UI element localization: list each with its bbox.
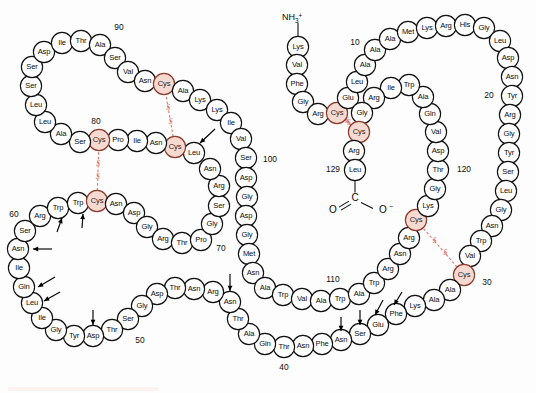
residue-lys-13[interactable]: Lys [416, 17, 437, 38]
residue-label: Gly [298, 97, 309, 106]
arrowhead-icon [33, 247, 38, 252]
residue-thr-120[interactable]: Thr [427, 159, 448, 180]
position-number-label: 110 [326, 274, 340, 284]
residue-label: Ile [133, 136, 141, 145]
residue-ile-78[interactable]: Ile [126, 130, 147, 151]
arrowhead-icon [91, 320, 96, 325]
residue-val-99[interactable]: Val [230, 128, 251, 149]
residue-asn-19[interactable]: Asn [501, 66, 522, 87]
residue-tyr-20[interactable]: Tyr [501, 85, 522, 106]
residue-asn-77[interactable]: Asn [145, 132, 166, 153]
residue-val-2[interactable]: Val [286, 54, 307, 75]
residue-label: Asp [240, 173, 253, 182]
residue-label: Asp [502, 53, 515, 62]
arrow-trp62-marker [57, 218, 63, 232]
residue-met-105[interactable]: Met [238, 243, 259, 264]
residue-label: Lys [409, 301, 420, 310]
residue-cys-80[interactable]: Cys [88, 129, 109, 150]
residue-trp-108[interactable]: Trp [272, 284, 293, 305]
residue-label: Tyr [507, 91, 518, 100]
residue-met-12[interactable]: Met [397, 21, 418, 42]
residue-label: Val [123, 67, 133, 76]
residue-label: Asp [151, 289, 164, 298]
residue-thr-89[interactable]: Thr [70, 30, 91, 51]
residue-ala-32[interactable]: Ala [423, 289, 444, 310]
residue-arg-130[interactable]: Arg [343, 140, 364, 161]
residue-label: Asn [12, 244, 25, 253]
residue-gly-102[interactable]: Gly [236, 186, 257, 207]
residue-pro-79[interactable]: Pro [107, 129, 128, 150]
residue-asp-101[interactable]: Asp [235, 167, 256, 188]
residue-trp-111[interactable]: Trp [329, 288, 350, 309]
position-number-label: 90 [114, 22, 124, 32]
residue-leu-75[interactable]: Leu [183, 142, 204, 163]
residue-arg-68[interactable]: Arg [152, 228, 173, 249]
residue-ser-24[interactable]: Ser [497, 161, 518, 182]
residue-leu-25[interactable]: Leu [495, 180, 516, 201]
residue-asn-37[interactable]: Asn [330, 329, 351, 350]
residue-gly-128[interactable]: Gly [351, 102, 372, 123]
residue-asp-103[interactable]: Asp [235, 205, 256, 226]
residue-asn-93[interactable]: Asn [134, 70, 155, 91]
residue-val-109[interactable]: Val [291, 288, 312, 309]
residue-label: Ala [370, 45, 381, 54]
residue-label: Asp [432, 146, 445, 155]
residue-label: Asn [297, 341, 310, 350]
residue-asp-18[interactable]: Asp [497, 47, 518, 68]
residue-label: Asn [139, 76, 152, 85]
residue-cys-129[interactable]: Cys [348, 121, 369, 142]
disulfide-s-label: S [96, 172, 100, 181]
residue-ser-72[interactable]: Ser [208, 195, 229, 216]
residue-arg-14[interactable]: Arg [435, 15, 456, 36]
residue-asn-39[interactable]: Asn [292, 335, 313, 356]
residue-thr-69[interactable]: Thr [171, 232, 192, 253]
residue-label: Ser [354, 329, 366, 338]
residue-gly-22[interactable]: Gly [498, 123, 519, 144]
residue-ser-81[interactable]: Ser [69, 131, 90, 152]
residue-cys-64[interactable]: Cys [86, 190, 107, 211]
residue-label: Trp [278, 290, 289, 299]
residue-val-29[interactable]: Val [459, 245, 480, 266]
residue-label: Arg [312, 109, 323, 118]
residue-his-15[interactable]: His [454, 14, 475, 35]
residue-trp-62[interactable]: Trp [47, 197, 68, 218]
residue-label: Val [236, 134, 246, 143]
residue-trp-63[interactable]: Trp [67, 192, 88, 213]
residue-cys-76[interactable]: Cys [164, 136, 185, 157]
residue-label: Ile [227, 118, 235, 127]
residue-asp-121[interactable]: Asp [427, 140, 448, 161]
position-number-label: 70 [216, 243, 226, 253]
residue-label: Ile [15, 263, 23, 272]
residue-ala-110[interactable]: Ala [310, 290, 331, 311]
arrowhead-icon [80, 214, 85, 219]
residue-tyr-23[interactable]: Tyr [498, 142, 519, 163]
residue-leu-84[interactable]: Leu [25, 94, 46, 115]
residue-ile-58[interactable]: Ile [8, 257, 29, 278]
residue-ser-85[interactable]: Ser [20, 75, 41, 96]
residue-gly-104[interactable]: Gly [236, 224, 257, 245]
residue-ser-100[interactable]: Ser [235, 147, 256, 168]
c-terminus-carboxylate: COO− [329, 181, 393, 216]
residue-cys-94[interactable]: Cys [153, 73, 174, 94]
residue-gly-119[interactable]: Gly [424, 178, 445, 199]
residue-asn-46[interactable]: Asn [183, 278, 204, 299]
residue-arg-5[interactable]: Arg [307, 103, 328, 124]
residue-arg-45[interactable]: Arg [202, 281, 223, 302]
carboxylate-oxygen-label: O [379, 204, 387, 215]
residue-asn-74[interactable]: Asn [199, 158, 220, 179]
residue-thr-40[interactable]: Thr [273, 336, 294, 357]
residue-asp-52[interactable]: Asp [82, 325, 103, 346]
residue-leu-131[interactable]: Leu [344, 159, 365, 180]
residue-phe-38[interactable]: Phe [311, 333, 332, 354]
residue-label: Ile [387, 83, 395, 92]
residue-lys-33[interactable]: Lys [404, 295, 425, 316]
residue-ser-36[interactable]: Ser [349, 323, 370, 344]
residue-label: Asn [394, 249, 407, 258]
residue-gln-57[interactable]: Gln [13, 276, 34, 297]
residue-label: Thr [170, 283, 182, 292]
residue-thr-51[interactable]: Thr [101, 319, 122, 340]
residue-label: Cys [93, 135, 106, 144]
residue-ile-88[interactable]: Ile [51, 32, 72, 53]
arrow-asn37-marker [339, 317, 344, 331]
residue-arg-21[interactable]: Arg [499, 104, 520, 125]
